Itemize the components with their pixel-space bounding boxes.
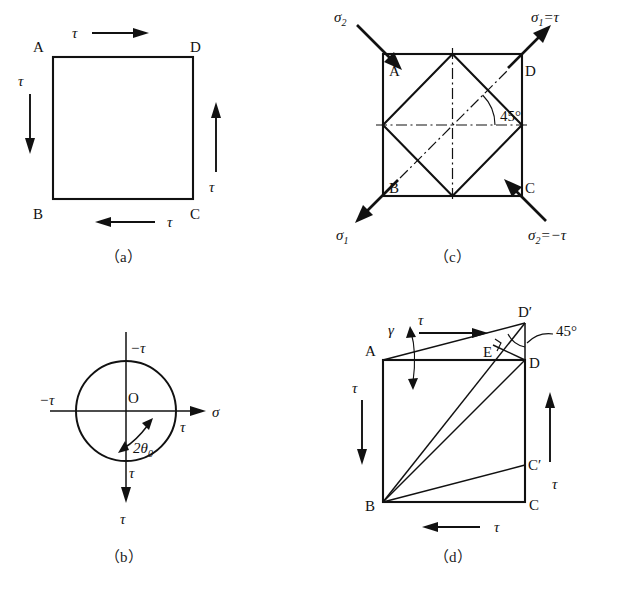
panel-a-stress-label-right: τ	[209, 179, 215, 195]
panel-a-caption: （a）	[105, 249, 142, 265]
panel-d-arrowhead-gamma-bottom	[408, 378, 418, 390]
panel-d-angle-label-45: 45°	[556, 323, 577, 339]
panel-c-label-C: C	[525, 180, 535, 196]
panel-c-label-sigma2-bottomright: σ2=−τ	[528, 227, 567, 246]
panel-d-arrow-bottom	[422, 522, 480, 532]
panel-d-label-D: D	[529, 355, 540, 371]
panel-b-arrowhead-tau-axis	[121, 487, 131, 503]
panel-d-label-E: E	[483, 344, 492, 360]
panel-d-shear-strain-label-gamma: γ	[388, 322, 395, 338]
panel-a-arrowhead-left	[25, 138, 35, 154]
panel-d-label-A: A	[365, 343, 376, 359]
panel-b-label-bottom-tau: τ	[129, 465, 135, 481]
panel-c-arrow-sigma2-topleft	[357, 25, 402, 70]
panel-a-label-A: A	[33, 39, 44, 55]
panel-d-arrowhead-bottom	[422, 522, 438, 532]
panel-b-angle-label-2theta0: 2θ0	[133, 440, 153, 459]
panel-b-caption: （b）	[105, 549, 143, 565]
panel-a-label-B: B	[33, 206, 43, 222]
panel-a-arrowhead-right	[211, 102, 221, 118]
panel-c-label-D: D	[525, 63, 536, 79]
panel-c: 45° A D B C σ2 σ1=τ σ1 σ2=−τ （c）	[334, 9, 567, 265]
panel-b-label-top-minus-tau: −τ	[130, 340, 146, 356]
panel-c-angle-arc-45	[483, 95, 495, 125]
panel-b-axis-label-sigma: σ	[212, 404, 220, 420]
panel-b-label-origin: O	[128, 390, 139, 406]
figure-canvas: A D B C τ τ τ τ （a）	[0, 0, 620, 593]
panel-b-arrowhead-2theta0-start	[118, 441, 129, 453]
panel-a-arrow-bottom	[95, 217, 155, 227]
panel-d: 45° γ τ τ τ τ	[352, 304, 577, 565]
panel-d-arrowhead-left	[357, 449, 367, 465]
panel-a-arrowhead-bottom	[95, 217, 111, 227]
panel-d-stress-label-top: τ	[418, 312, 424, 328]
panel-d-arrow-left	[357, 400, 367, 465]
panel-d-shear-strain-gamma-arrow	[406, 326, 418, 390]
panel-c-arrow-sigma1-topright	[508, 25, 551, 68]
panel-d-label-B: B	[365, 498, 375, 514]
panel-d-arrowhead-right	[545, 392, 555, 408]
panel-c-label-sigma1-bottomleft: σ1	[336, 227, 348, 246]
panel-b-arrowhead-2theta0-end	[142, 418, 153, 430]
panel-d-angle-leader-45	[527, 334, 553, 343]
panel-c-label-sigma2-topleft: σ2	[334, 9, 346, 28]
panel-d-stress-label-right: τ	[552, 476, 558, 492]
panel-b-axis-sigma	[50, 406, 206, 416]
panel-b-label-right-tau: τ	[180, 419, 186, 435]
panel-a-element-square	[53, 57, 193, 199]
panel-c-caption: （c）	[434, 249, 471, 265]
figure-root: A D B C τ τ τ τ （a）	[0, 0, 620, 593]
panel-d-deformed-edge-B-Cprime	[383, 465, 525, 502]
panel-a: A D B C τ τ τ τ （a）	[18, 25, 221, 265]
panel-a-stress-label-bottom: τ	[167, 214, 173, 230]
panel-d-label-Dprime: D′	[518, 304, 532, 320]
panel-a-arrow-right	[211, 102, 221, 172]
panel-c-principal-axis-diagonal	[400, 70, 508, 178]
panel-d-diagonal-B-D	[383, 360, 525, 502]
panel-a-arrowhead-top	[133, 28, 149, 38]
panel-a-label-C: C	[190, 206, 200, 222]
panel-b-arrowhead-sigma-axis	[190, 406, 206, 416]
panel-c-arrow-sigma1-bottomleft	[355, 180, 398, 223]
panel-a-stress-label-left: τ	[18, 73, 24, 89]
panel-b-label-left-minus-tau: −τ	[39, 392, 55, 408]
panel-d-caption: （d）	[434, 549, 472, 565]
panel-d-arrow-right	[545, 392, 555, 462]
panel-a-arrow-top	[92, 28, 149, 38]
panel-b-axis-label-tau: τ	[120, 511, 126, 527]
panel-c-angle-label-45: 45°	[500, 108, 521, 124]
panel-d-deformed-edge-A-Dprime	[383, 323, 525, 360]
panel-d-stress-label-bottom: τ	[494, 519, 500, 535]
panel-b: σ τ O −τ −τ τ τ 2θ0 （b）	[39, 332, 220, 565]
panel-a-stress-label-top: τ	[72, 25, 78, 41]
panel-d-arrow-top	[419, 328, 488, 338]
panel-d-label-C: C	[529, 497, 539, 513]
panel-d-arrowhead-top	[472, 328, 488, 338]
panel-d-stress-label-left: τ	[352, 380, 358, 396]
panel-a-arrow-left	[25, 94, 35, 154]
panel-d-arrowhead-gamma-top	[406, 326, 416, 338]
panel-d-label-Cprime: C′	[528, 457, 541, 473]
panel-d-right-angle-mark	[495, 339, 501, 351]
panel-c-label-sigma1-topright: σ1=τ	[531, 9, 560, 28]
panel-a-label-D: D	[190, 39, 201, 55]
